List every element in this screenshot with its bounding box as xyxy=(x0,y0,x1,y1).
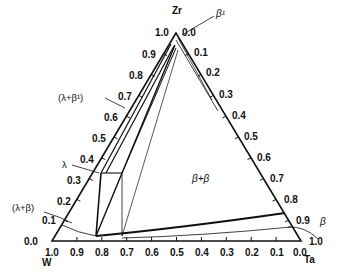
svg-text:0.6: 0.6 xyxy=(257,152,271,163)
left-axis-labels: 0.0 0.1 0.2 0.3 0.4 0.5 0.6 0.7 0.8 0.9 … xyxy=(24,27,169,247)
svg-text:0.4: 0.4 xyxy=(195,247,209,258)
svg-text:0.8: 0.8 xyxy=(129,70,143,81)
svg-text:0.3: 0.3 xyxy=(219,89,233,100)
bottom-axis-labels: 1.0 0.9 0.8 0.7 0.6 0.5 0.4 0.3 0.2 0.1 … xyxy=(45,247,307,258)
svg-text:0.5: 0.5 xyxy=(244,131,258,142)
phase-label-lambda: λ xyxy=(62,159,67,170)
ternary-diagram: Zr W Ta 0.0 0.1 0.2 0.3 0.4 0.5 0.6 0.7 … xyxy=(0,0,339,276)
beta-region-curve xyxy=(122,227,291,238)
svg-text:0.3: 0.3 xyxy=(67,175,81,186)
lambda-beta-curve xyxy=(62,225,96,236)
svg-text:0.7: 0.7 xyxy=(120,247,134,258)
right-axis-labels: 0.0 0.1 0.2 0.3 0.4 0.5 0.6 0.7 0.8 0.9 … xyxy=(182,27,323,247)
svg-text:0.0: 0.0 xyxy=(293,247,307,258)
svg-text:0.1: 0.1 xyxy=(270,247,284,258)
svg-text:0.9: 0.9 xyxy=(70,247,84,258)
svg-text:0.0: 0.0 xyxy=(182,27,196,38)
svg-text:0.6: 0.6 xyxy=(104,112,118,123)
svg-text:0.8: 0.8 xyxy=(284,194,298,205)
svg-text:1.0: 1.0 xyxy=(309,236,323,247)
lambda-beta-prime-right-boundary xyxy=(106,46,174,173)
svg-text:0.7: 0.7 xyxy=(270,173,284,184)
svg-text:0.1: 0.1 xyxy=(194,47,208,58)
svg-text:0.5: 0.5 xyxy=(92,133,106,144)
phase-label-beta-beta: β+β xyxy=(191,173,210,184)
vertex-label-w: W xyxy=(42,257,52,268)
svg-text:0.2: 0.2 xyxy=(206,67,220,78)
svg-text:1.0: 1.0 xyxy=(45,247,59,258)
beta-beta-lower-curve xyxy=(96,213,285,236)
svg-text:0.4: 0.4 xyxy=(80,154,94,165)
phase-label-lambda-beta-prime: (λ+β¹) xyxy=(58,92,83,103)
annotation-pointers xyxy=(44,16,318,239)
phase-label-beta: β xyxy=(319,216,326,227)
svg-text:0.2: 0.2 xyxy=(57,196,71,207)
vertex-label-zr: Zr xyxy=(172,5,182,16)
phase-label-beta-prime: β¹ xyxy=(215,8,226,19)
svg-text:0.6: 0.6 xyxy=(145,247,159,258)
phase-label-lambda-beta: (λ+β) xyxy=(12,202,34,213)
svg-text:0.1: 0.1 xyxy=(42,215,56,226)
svg-text:0.8: 0.8 xyxy=(95,247,109,258)
triangle-frame xyxy=(52,33,301,241)
svg-text:0.9: 0.9 xyxy=(296,215,310,226)
svg-text:0.2: 0.2 xyxy=(245,247,259,258)
svg-text:0.3: 0.3 xyxy=(220,247,234,258)
svg-text:0.0: 0.0 xyxy=(24,236,38,247)
svg-text:0.9: 0.9 xyxy=(142,49,156,60)
svg-text:0.7: 0.7 xyxy=(118,91,132,102)
svg-text:1.0: 1.0 xyxy=(155,27,169,38)
svg-text:0.4: 0.4 xyxy=(232,110,246,121)
svg-text:0.5: 0.5 xyxy=(170,247,184,258)
